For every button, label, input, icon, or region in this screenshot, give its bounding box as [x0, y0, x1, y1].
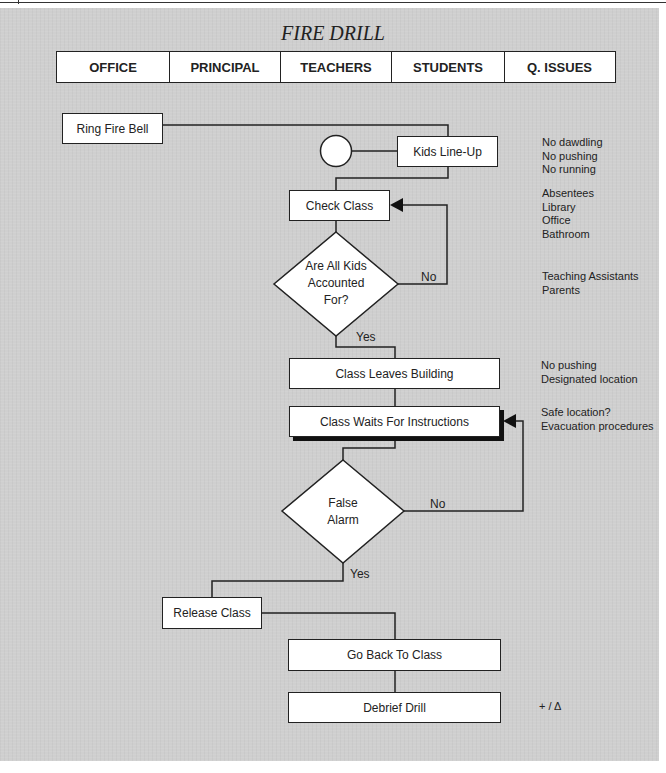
issues-leaves-building: No pushing Designated location — [541, 359, 638, 386]
node-kids-line-up: Kids Line-Up — [397, 136, 498, 167]
issue-item: Evacuation procedures — [541, 420, 654, 434]
decision-label-line: False — [303, 495, 383, 512]
node-label: Check Class — [306, 199, 373, 213]
node-label: Go Back To Class — [347, 648, 442, 662]
start-circle — [321, 136, 352, 167]
issues-check-class: Absentees Library Office Bathroom — [542, 187, 594, 241]
edge-label-false-alarm-no: No — [430, 497, 445, 511]
node-label: Ring Fire Bell — [76, 122, 148, 136]
decision-label-line: Are All Kids — [286, 258, 386, 275]
decision-false-alarm-label: False Alarm — [303, 495, 383, 529]
issue-item: No pushing — [542, 150, 603, 164]
issue-item: Bathroom — [542, 228, 594, 242]
issue-item: No pushing — [541, 359, 638, 373]
connector-waits-falsealarm — [343, 440, 395, 460]
node-label: Kids Line-Up — [413, 145, 482, 159]
edge-label-accounted-no: No — [421, 270, 436, 284]
issue-item: Designated location — [541, 373, 638, 387]
decision-label-line: Accounted — [286, 275, 386, 292]
node-check-class: Check Class — [289, 190, 390, 221]
issue-item: No dawdling — [542, 136, 603, 150]
edge-label-accounted-yes: Yes — [356, 330, 376, 344]
node-class-leaves-building: Class Leaves Building — [289, 358, 500, 389]
issue-item: Parents — [542, 284, 639, 298]
node-debrief-drill: Debrief Drill — [288, 692, 501, 723]
node-release-class: Release Class — [162, 597, 262, 629]
node-label: Class Leaves Building — [335, 367, 453, 381]
edge-label-false-alarm-yes: Yes — [350, 567, 370, 581]
issue-item: Library — [542, 201, 594, 215]
issue-item: + / Δ — [539, 700, 561, 714]
issues-debrief: + / Δ — [539, 700, 561, 714]
issues-line-up: No dawdling No pushing No running — [542, 136, 603, 177]
issue-item: No running — [542, 163, 603, 177]
issue-item: Teaching Assistants — [542, 270, 639, 284]
decision-label-line: Alarm — [303, 512, 383, 529]
node-ring-fire-bell: Ring Fire Bell — [62, 113, 163, 144]
connector-release-goback — [261, 613, 395, 640]
connector-falsealarm-yes — [212, 563, 343, 597]
arrowhead-waits — [503, 414, 516, 428]
issue-item: Office — [542, 214, 594, 228]
node-label: Release Class — [173, 606, 250, 620]
connector-ringbell-lineup — [162, 125, 448, 136]
connector-lineup-checkclass — [336, 166, 448, 190]
issue-item: Safe location? — [541, 406, 654, 420]
node-label: Class Waits For Instructions — [320, 415, 469, 429]
arrowhead-checkclass — [390, 198, 403, 212]
issues-waits: Safe location? Evacuation procedures — [541, 406, 654, 433]
node-go-back-to-class: Go Back To Class — [288, 639, 501, 671]
issues-accounted: Teaching Assistants Parents — [542, 270, 639, 297]
decision-label-line: For? — [286, 292, 386, 309]
node-label: Debrief Drill — [363, 701, 426, 715]
node-class-waits-for-instructions: Class Waits For Instructions — [289, 406, 500, 437]
issue-item: Absentees — [542, 187, 594, 201]
decision-accounted-label: Are All Kids Accounted For? — [286, 258, 386, 309]
